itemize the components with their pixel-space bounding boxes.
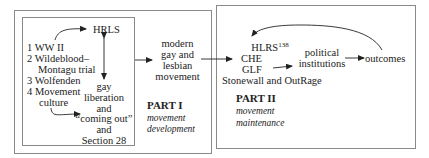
arrow-feedback-outcomes-to-hlrs [252, 25, 382, 50]
arrow-glf-to-political [273, 66, 292, 68]
arrow-factors-to-hrls [55, 29, 86, 40]
diagram-arrows [0, 0, 429, 158]
arrow-culture-to-coming-out [51, 108, 80, 115]
